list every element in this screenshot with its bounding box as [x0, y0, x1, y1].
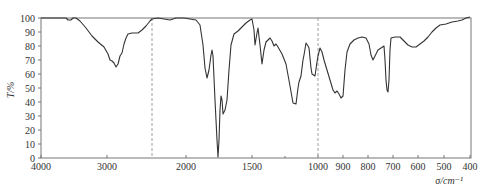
x-tick-label: 700	[386, 161, 401, 172]
y-tick-label: 20	[25, 125, 35, 136]
x-axis-label: σ/cm⁻¹	[435, 175, 463, 186]
y-tick-label: 10	[25, 139, 35, 150]
x-tick-label: 3000	[97, 161, 117, 172]
x-tick-label: 400	[463, 161, 478, 172]
x-tick-label: 600	[411, 161, 426, 172]
y-tick-label: 50	[25, 83, 35, 94]
x-tick-label: 800	[361, 161, 376, 172]
y-tick-label: 40	[25, 97, 35, 108]
x-tick-label: 900	[336, 161, 351, 172]
y-tick-label: 90	[25, 27, 35, 38]
y-tick-label: 30	[25, 111, 35, 122]
y-axis: 0102030405060708090100	[20, 13, 41, 164]
ir-spectrum-chart: 0102030405060708090100 40003000200015001…	[0, 0, 491, 189]
y-tick-label: 70	[25, 55, 35, 66]
y-tick-label: 80	[25, 41, 35, 52]
x-tick-label: 500	[437, 161, 452, 172]
x-tick-label: 2000	[176, 161, 196, 172]
x-tick-label: 1500	[242, 161, 262, 172]
x-tick-label: 1000	[308, 161, 328, 172]
y-axis-label: T/%	[5, 82, 16, 99]
spectrum-line	[41, 17, 470, 157]
y-tick-label: 60	[25, 69, 35, 80]
y-tick-label: 100	[20, 13, 35, 24]
x-tick-label: 4000	[31, 161, 51, 172]
